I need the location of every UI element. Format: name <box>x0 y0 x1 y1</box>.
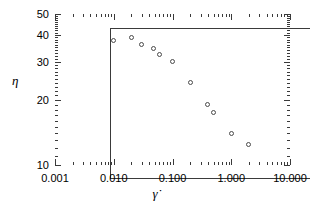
data-point <box>129 35 134 40</box>
x-minor-tick-top <box>111 14 112 17</box>
y-major-tick <box>55 100 61 101</box>
x-minor-tick-top <box>149 14 150 17</box>
x-minor-tick-top <box>105 14 106 17</box>
y-minor-tick <box>55 24 58 25</box>
y-minor-tick-right <box>287 33 290 34</box>
data-point <box>229 131 234 136</box>
y-minor-tick <box>55 16 58 17</box>
y-minor-tick <box>55 87 58 88</box>
y-major-tick <box>55 62 61 63</box>
y-minor-tick-right <box>287 47 290 48</box>
y-minor-tick <box>55 42 58 43</box>
x-minor-tick-top <box>281 14 282 17</box>
y-minor-tick <box>55 91 58 92</box>
plot-area <box>55 14 290 165</box>
y-minor-tick <box>55 26 58 27</box>
x-minor-tick-top <box>249 14 250 17</box>
x-minor-tick-top <box>214 14 215 17</box>
x-minor-tick <box>272 162 273 165</box>
y-minor-tick <box>55 40 58 41</box>
y-tick-label: 20 <box>23 94 49 105</box>
x-minor-tick <box>208 162 209 165</box>
x-minor-tick <box>108 162 109 165</box>
y-minor-tick-right <box>287 127 290 128</box>
y-major-tick-right <box>284 165 290 166</box>
y-minor-tick <box>55 110 58 111</box>
x-major-tick <box>173 159 174 165</box>
y-minor-tick <box>55 68 58 69</box>
x-minor-tick <box>281 162 282 165</box>
y-minor-tick <box>55 28 58 29</box>
x-tick-label: 0.001 <box>41 173 69 184</box>
x-minor-tick <box>249 162 250 165</box>
x-minor-tick <box>155 162 156 165</box>
y-major-tick <box>55 165 61 166</box>
y-minor-tick-right <box>287 133 290 134</box>
x-minor-tick <box>96 162 97 165</box>
x-minor-tick <box>111 162 112 165</box>
x-minor-tick-top <box>267 14 268 17</box>
x-minor-tick-top <box>277 14 278 17</box>
y-minor-tick-right <box>287 37 290 38</box>
x-axis-title: γ̇ <box>0 186 310 202</box>
y-minor-tick-right <box>287 24 290 25</box>
y-minor-tick-right <box>287 156 290 157</box>
x-minor-tick-top <box>226 14 227 17</box>
x-minor-tick <box>267 162 268 165</box>
y-minor-tick-right <box>287 148 290 149</box>
y-minor-tick-right <box>287 16 290 17</box>
y-minor-tick <box>55 127 58 128</box>
y-tick-label: 40 <box>23 29 49 40</box>
y-minor-tick-right <box>287 26 290 27</box>
y-minor-tick-right <box>287 28 290 29</box>
x-major-tick-top <box>290 14 291 20</box>
x-minor-tick <box>229 162 230 165</box>
y-minor-tick-right <box>287 18 290 19</box>
x-minor-tick-top <box>83 14 84 17</box>
y-minor-tick <box>55 105 58 106</box>
x-minor-tick-top <box>96 14 97 17</box>
x-minor-tick-top <box>73 14 74 17</box>
y-minor-tick-right <box>287 121 290 122</box>
y-minor-tick <box>55 148 58 149</box>
x-minor-tick <box>73 162 74 165</box>
x-minor-tick-top <box>90 14 91 17</box>
x-minor-tick <box>214 162 215 165</box>
x-minor-tick <box>226 162 227 165</box>
x-minor-tick-top <box>170 14 171 17</box>
y-minor-tick-right <box>287 56 290 57</box>
x-minor-tick-top <box>101 14 102 17</box>
x-minor-tick <box>142 162 143 165</box>
x-minor-tick <box>167 162 168 165</box>
y-axis-title: η <box>12 73 18 89</box>
y-minor-tick <box>55 30 58 31</box>
y-tick-label: 10 <box>23 160 49 171</box>
x-minor-tick <box>149 162 150 165</box>
x-minor-tick <box>131 162 132 165</box>
y-minor-tick <box>55 47 58 48</box>
y-minor-tick <box>55 45 58 46</box>
y-minor-tick-right <box>287 140 290 141</box>
y-major-tick <box>55 35 61 36</box>
y-minor-tick <box>55 18 58 19</box>
y-minor-tick-right <box>287 20 290 21</box>
y-minor-tick-right <box>287 95 290 96</box>
y-minor-tick-right <box>287 115 290 116</box>
y-minor-tick <box>55 37 58 38</box>
x-minor-tick-top <box>167 14 168 17</box>
y-minor-tick-right <box>287 22 290 23</box>
x-minor-tick <box>259 162 260 165</box>
y-minor-tick-right <box>287 45 290 46</box>
x-minor-tick-top <box>208 14 209 17</box>
x-major-tick-top <box>231 14 232 20</box>
y-minor-tick-right <box>287 65 290 66</box>
x-minor-tick-top <box>190 14 191 17</box>
y-minor-tick <box>55 53 58 54</box>
y-minor-tick-right <box>287 72 290 73</box>
y-major-tick-right <box>284 100 290 101</box>
x-minor-tick <box>83 162 84 165</box>
x-major-tick <box>231 159 232 165</box>
y-minor-tick-right <box>287 59 290 60</box>
y-minor-tick <box>55 56 58 57</box>
x-minor-tick <box>163 162 164 165</box>
